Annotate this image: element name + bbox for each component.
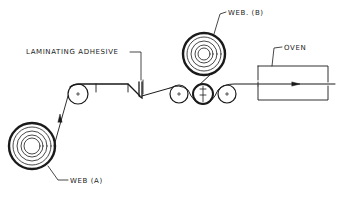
adhesive-leader bbox=[130, 52, 141, 80]
support-ticks bbox=[96, 84, 128, 92]
web-b-label: WEB. (B) bbox=[228, 9, 264, 17]
web-a-top-path bbox=[70, 84, 140, 96]
web-a-label: WEB (A) bbox=[70, 177, 103, 185]
oven-leader bbox=[272, 47, 282, 66]
web-a-roll bbox=[9, 123, 55, 169]
web-b-roll bbox=[183, 33, 225, 75]
web-a-leader bbox=[48, 166, 68, 180]
arrow-icon bbox=[292, 82, 300, 86]
adhesive-applicator bbox=[139, 80, 143, 98]
web-b-leader bbox=[214, 12, 226, 34]
laminating-diagram: LAMINATING ADHESIVE WEB. (B) OVEN WEB (A… bbox=[0, 0, 338, 201]
oven-label: OVEN bbox=[284, 44, 306, 52]
web-a-to-nip bbox=[142, 88, 170, 96]
adhesive-label: LAMINATING ADHESIVE bbox=[26, 48, 119, 56]
